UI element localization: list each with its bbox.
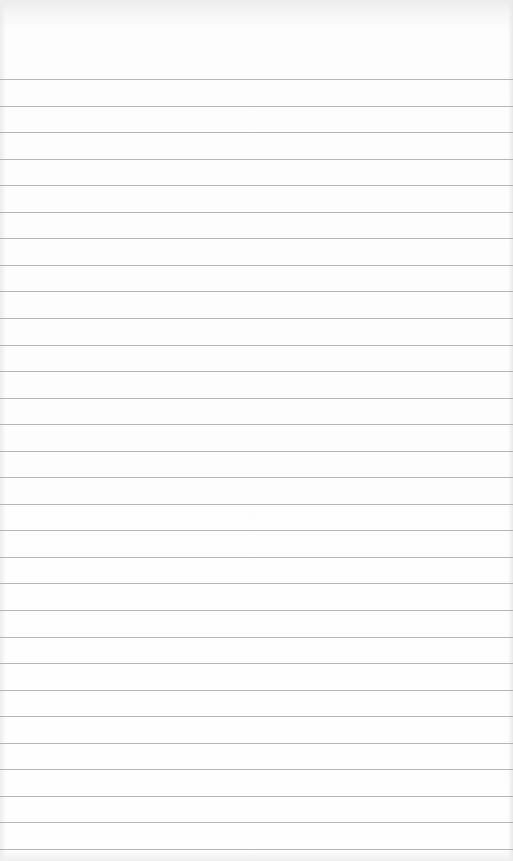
ruled-line [0, 291, 513, 292]
ruled-line [0, 106, 513, 107]
ruled-line [0, 743, 513, 744]
ruled-line [0, 371, 513, 372]
ruled-line [0, 504, 513, 505]
paper-bottom-edge-shadow [0, 849, 513, 861]
ruled-line [0, 132, 513, 133]
ruled-line [0, 557, 513, 558]
ruled-line [0, 159, 513, 160]
ruled-line [0, 637, 513, 638]
ruled-paper-sheet [0, 0, 513, 861]
ruled-line [0, 185, 513, 186]
ruled-line [0, 610, 513, 611]
ruled-line [0, 79, 513, 80]
ruled-line [0, 398, 513, 399]
ruled-line [0, 716, 513, 717]
ruled-line [0, 822, 513, 823]
ruled-line [0, 345, 513, 346]
ruled-line [0, 212, 513, 213]
ruled-line [0, 663, 513, 664]
ruled-line [0, 690, 513, 691]
ruled-line [0, 583, 513, 584]
paper-right-edge-shadow [508, 0, 513, 861]
ruled-line [0, 849, 513, 850]
ruled-line [0, 424, 513, 425]
paper-left-edge-shadow [0, 0, 6, 861]
ruled-line [0, 769, 513, 770]
ruled-line [0, 530, 513, 531]
ruled-line [0, 318, 513, 319]
ruled-line [0, 265, 513, 266]
ruled-line [0, 451, 513, 452]
ruled-line [0, 238, 513, 239]
ruled-line [0, 477, 513, 478]
ruled-line [0, 796, 513, 797]
